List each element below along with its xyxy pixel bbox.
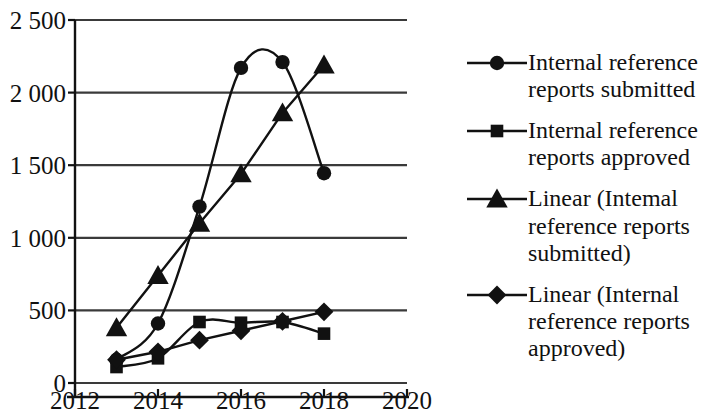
x-axis-tick-group: 2020	[362, 388, 452, 413]
square-marker-icon	[466, 116, 528, 146]
series-line	[117, 49, 325, 359]
square-marker-icon	[466, 116, 528, 146]
diamond-marker-icon	[315, 302, 334, 321]
x-axis-tick-label: 2012	[50, 388, 100, 413]
y-axis-tick-label: 2 000	[10, 80, 66, 105]
chart-plot-region: 0 500 1 000 1 500 2 000 2 500 2012 2014 …	[0, 0, 460, 419]
circle-marker-icon	[466, 48, 528, 78]
x-axis-tick-label: 2020	[382, 388, 432, 413]
y-axis-tick-label: 2 500	[10, 8, 66, 33]
triangle-marker-icon	[466, 184, 528, 214]
diamond-marker-icon	[488, 285, 507, 304]
circle-marker-icon	[466, 48, 528, 78]
diamond-marker-icon	[466, 280, 528, 310]
circle-marker-icon	[490, 56, 504, 70]
diamond-marker-icon	[273, 312, 292, 331]
x-axis-tick-group: 2018	[279, 388, 369, 413]
x-axis-tick-label: 2014	[133, 388, 183, 413]
diamond-marker-icon	[190, 331, 209, 350]
x-axis-tick-label: 2016	[216, 388, 266, 413]
x-axis-tick-group: 2016	[196, 388, 286, 413]
legend-item-label: Linear (Internal reference reports appro…	[528, 280, 704, 362]
series-line	[117, 320, 325, 367]
circle-marker-icon	[317, 166, 331, 180]
x-axis-tick-group: 2012	[30, 388, 120, 413]
diamond-marker-icon	[149, 342, 168, 361]
circle-marker-icon	[275, 55, 289, 69]
legend-item-label: Linear (Intemal reference reports submit…	[528, 184, 704, 266]
y-axis-tick-label: 1 000	[10, 225, 66, 250]
diamond-marker-icon	[232, 321, 251, 340]
diamond-marker-icon	[466, 280, 528, 310]
chart-legend: Internal reference reports submitted Int…	[466, 48, 704, 375]
triangle-marker-icon	[313, 55, 334, 74]
circle-marker-icon	[192, 199, 206, 213]
x-axis-tick-group: 2014	[113, 388, 203, 413]
y-axis-tick-label: 500	[29, 298, 67, 323]
legend-item-label: Internal reference reports approved	[528, 116, 704, 171]
legend-item: Internal reference reports submitted	[466, 48, 704, 103]
square-marker-icon	[491, 125, 504, 138]
circle-marker-icon	[151, 316, 165, 330]
x-axis-tick-label: 2018	[299, 388, 349, 413]
legend-item-label: Internal reference reports submitted	[528, 48, 704, 103]
y-axis-tick-label: 1 500	[10, 153, 66, 178]
triangle-marker-icon	[466, 184, 528, 214]
legend-item: Linear (Intemal reference reports submit…	[466, 184, 704, 266]
series-line	[117, 65, 325, 328]
chart-canvas	[0, 0, 460, 419]
legend-item: Linear (Internal reference reports appro…	[466, 280, 704, 362]
chart-figure: 0 500 1 000 1 500 2 000 2 500 2012 2014 …	[0, 0, 704, 419]
square-marker-icon	[193, 316, 206, 329]
square-marker-icon	[318, 327, 331, 340]
circle-marker-icon	[234, 61, 248, 75]
legend-item: Internal reference reports approved	[466, 116, 704, 171]
